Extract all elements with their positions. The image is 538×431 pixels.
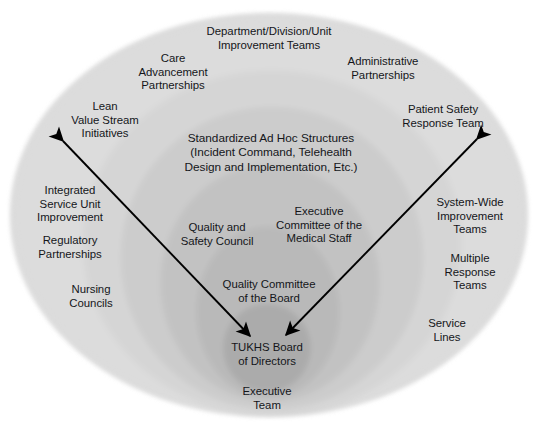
- diagram-canvas: Department/Division/Unit Improvement Tea…: [0, 0, 538, 431]
- arrow-overlay-graphic: [0, 0, 538, 431]
- arrow-left-diagonal: [63, 141, 250, 336]
- arrow-right-diagonal: [286, 139, 477, 335]
